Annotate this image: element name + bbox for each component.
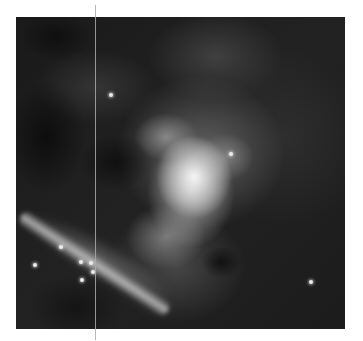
star — [80, 278, 84, 282]
vertical-divider-line — [95, 5, 96, 340]
star — [229, 152, 233, 156]
star — [59, 245, 63, 249]
star — [89, 261, 93, 265]
star — [309, 280, 313, 284]
star — [109, 93, 113, 97]
star — [33, 263, 37, 267]
star — [79, 260, 83, 264]
nebula-dark-lanes — [16, 17, 345, 329]
nebula-image — [16, 17, 345, 329]
